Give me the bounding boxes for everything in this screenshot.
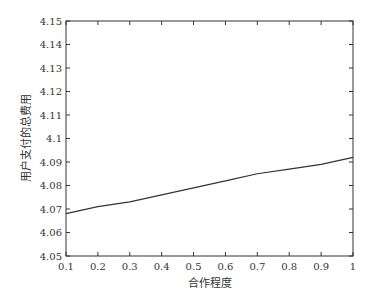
x-axis-label: 合作程度 bbox=[188, 276, 232, 290]
x-tick-label: 0.9 bbox=[313, 261, 329, 272]
x-tick-label: 0.5 bbox=[186, 261, 202, 272]
x-tick-label: 0.2 bbox=[90, 261, 106, 272]
y-tick-label: 4.12 bbox=[40, 86, 62, 97]
y-tick-label: 4.08 bbox=[40, 180, 62, 191]
y-tick-label: 4.1 bbox=[46, 133, 62, 144]
x-tick-label: 0.4 bbox=[154, 261, 170, 272]
series-line bbox=[66, 157, 353, 213]
x-tick-label: 1 bbox=[350, 261, 356, 272]
y-tick-label: 4.09 bbox=[40, 157, 62, 168]
y-tick-label: 4.15 bbox=[40, 16, 62, 27]
y-tick-label: 4.05 bbox=[40, 251, 62, 262]
y-tick-label: 4.14 bbox=[40, 39, 62, 50]
x-tick-label: 0.7 bbox=[249, 261, 265, 272]
y-axis-label: 用户支付的总费用 bbox=[19, 94, 33, 182]
line-chart: 0.10.20.30.40.50.60.70.80.914.054.064.07… bbox=[0, 0, 376, 305]
x-tick-label: 0.8 bbox=[281, 261, 297, 272]
y-tick-label: 4.06 bbox=[40, 227, 62, 238]
x-tick-label: 0.3 bbox=[122, 261, 138, 272]
y-tick-label: 4.07 bbox=[40, 204, 62, 215]
y-tick-label: 4.13 bbox=[40, 63, 62, 74]
y-tick-label: 4.11 bbox=[40, 110, 62, 121]
x-tick-label: 0.1 bbox=[58, 261, 74, 272]
axes-frame bbox=[66, 21, 353, 256]
x-tick-label: 0.6 bbox=[217, 261, 233, 272]
plot-area: 0.10.20.30.40.50.60.70.80.914.054.064.07… bbox=[40, 16, 356, 273]
